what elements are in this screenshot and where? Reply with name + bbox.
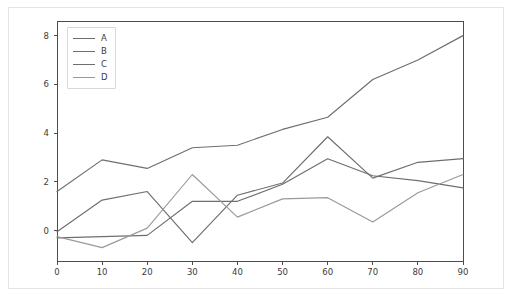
series-line-b	[57, 137, 463, 243]
legend-item-d[interactable]: D	[73, 71, 108, 84]
legend-swatch-icon-a	[73, 38, 95, 39]
chart-legend[interactable]: ABCD	[67, 27, 116, 89]
x-tick-label-0: 0	[42, 267, 72, 277]
x-tick-label-40: 40	[222, 267, 252, 277]
y-tick-label-2: 2	[27, 177, 49, 187]
legend-label: C	[101, 60, 107, 69]
x-tick-label-70: 70	[358, 267, 388, 277]
legend-item-c[interactable]: C	[73, 58, 108, 71]
y-tick-label-0: 0	[27, 226, 49, 236]
x-tick-label-50: 50	[268, 267, 298, 277]
y-tick-label-4: 4	[27, 128, 49, 138]
x-tick-label-90: 90	[448, 267, 478, 277]
figure-canvas: 010203040506070809002468 ABCD	[0, 0, 512, 296]
x-tick-label-60: 60	[313, 267, 343, 277]
y-tick-label-6: 6	[27, 79, 49, 89]
series-line-c	[57, 159, 463, 238]
legend-label: D	[101, 73, 108, 82]
x-tick-label-80: 80	[403, 267, 433, 277]
x-tick-label-30: 30	[177, 267, 207, 277]
y-tick-label-8: 8	[27, 31, 49, 41]
axes-frame	[57, 21, 463, 261]
legend-swatch-icon-c	[73, 64, 95, 65]
legend-swatch-icon-b	[73, 51, 95, 52]
legend-item-b[interactable]: B	[73, 45, 108, 58]
legend-item-a[interactable]: A	[73, 32, 108, 45]
x-tick-label-10: 10	[87, 267, 117, 277]
data-lines	[57, 36, 463, 248]
legend-label: A	[101, 34, 107, 43]
x-tick-label-20: 20	[132, 267, 162, 277]
legend-label: B	[101, 47, 107, 56]
legend-swatch-icon-d	[73, 77, 95, 78]
